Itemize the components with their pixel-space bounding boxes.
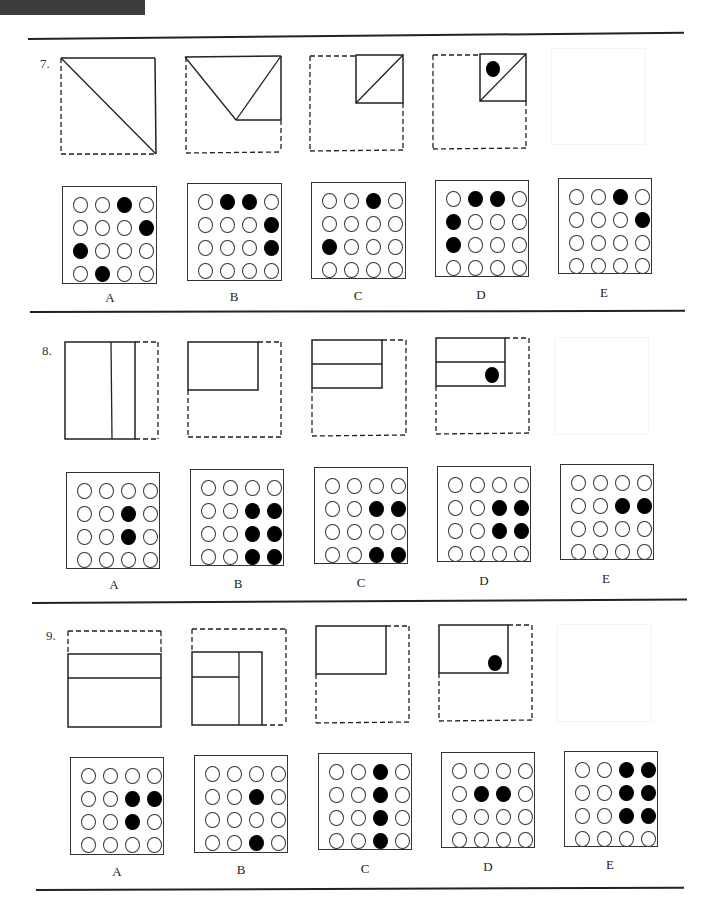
empty-hole-icon [369, 524, 384, 540]
empty-hole-icon [575, 762, 590, 778]
filled-hole-icon [249, 835, 264, 851]
empty-hole-icon [512, 260, 527, 276]
filled-hole-icon [641, 762, 656, 778]
option-E-label[interactable]: E [600, 857, 620, 873]
empty-hole-icon [518, 763, 533, 779]
empty-hole-icon [205, 789, 220, 805]
filled-hole-icon [641, 808, 656, 824]
empty-hole-icon [613, 258, 628, 274]
option-D-grid[interactable] [437, 466, 531, 562]
filled-hole-icon [242, 194, 257, 210]
empty-hole-icon [446, 260, 461, 276]
empty-hole-icon [490, 260, 505, 276]
empty-hole-icon [329, 833, 344, 849]
empty-hole-icon [452, 809, 467, 825]
option-C-grid[interactable] [314, 467, 408, 564]
option-E-grid[interactable] [558, 178, 652, 274]
filled-hole-icon [139, 220, 154, 236]
option-B-grid[interactable] [187, 183, 282, 281]
filled-hole-icon [373, 810, 388, 826]
option-B-label[interactable]: B [224, 289, 244, 305]
empty-hole-icon [81, 837, 96, 853]
empty-hole-icon [267, 480, 282, 496]
option-E-label[interactable]: E [594, 285, 614, 301]
filled-hole-icon [492, 523, 507, 539]
option-D-grid[interactable] [441, 752, 535, 848]
fold-step-2 [191, 627, 289, 729]
option-B-grid[interactable] [190, 469, 284, 566]
option-D-label[interactable]: D [474, 573, 494, 589]
empty-hole-icon [395, 764, 410, 780]
option-D-label[interactable]: D [478, 859, 498, 875]
empty-hole-icon [325, 501, 340, 517]
empty-hole-icon [474, 763, 489, 779]
filled-hole-icon [366, 193, 381, 209]
empty-hole-icon [490, 237, 505, 253]
option-C-label[interactable]: C [351, 575, 371, 591]
option-E-grid[interactable] [560, 464, 654, 560]
empty-hole-icon [597, 831, 612, 847]
empty-hole-icon [468, 214, 483, 230]
option-D-grid[interactable] [435, 180, 529, 277]
empty-hole-icon [329, 764, 344, 780]
empty-hole-icon [635, 235, 650, 251]
option-B-label[interactable]: B [231, 862, 251, 878]
punched-hole-icon [488, 655, 502, 671]
empty-hole-icon [597, 762, 612, 778]
empty-hole-icon [271, 812, 286, 828]
empty-hole-icon [571, 498, 586, 514]
option-A-grid[interactable] [62, 186, 157, 284]
empty-hole-icon [344, 239, 359, 255]
option-C-label[interactable]: C [355, 861, 375, 877]
option-A-label[interactable]: A [104, 577, 124, 593]
option-A-grid[interactable] [66, 472, 160, 569]
filled-hole-icon [391, 501, 406, 517]
filled-hole-icon [496, 786, 511, 802]
fold-step-1 [67, 629, 165, 731]
option-A-label[interactable]: A [107, 864, 127, 880]
empty-hole-icon [103, 837, 118, 853]
divider-bottom [36, 887, 684, 891]
empty-hole-icon [220, 240, 235, 256]
option-B-label[interactable]: B [228, 576, 248, 592]
empty-hole-icon [147, 837, 162, 853]
option-A-grid[interactable] [70, 757, 164, 855]
option-C-grid[interactable] [311, 182, 406, 279]
empty-hole-icon [147, 768, 162, 784]
filled-hole-icon [446, 237, 461, 253]
option-A-label[interactable]: A [100, 290, 120, 306]
option-C-label[interactable]: C [348, 288, 368, 304]
fold-step-3 [309, 54, 407, 154]
empty-hole-icon [325, 524, 340, 540]
punched-hole-icon [485, 367, 499, 383]
empty-hole-icon [198, 263, 213, 279]
option-E-grid[interactable] [564, 751, 658, 847]
divider-top [28, 32, 684, 40]
empty-hole-icon [329, 810, 344, 826]
empty-hole-icon [121, 552, 136, 568]
empty-hole-icon [369, 478, 384, 494]
empty-hole-icon [77, 506, 92, 522]
header-bar [0, 0, 145, 15]
empty-hole-icon [637, 544, 652, 560]
option-E-label[interactable]: E [596, 571, 616, 587]
empty-hole-icon [593, 498, 608, 514]
empty-hole-icon [271, 835, 286, 851]
option-B-grid[interactable] [194, 755, 288, 853]
fold-step-4 [435, 337, 533, 439]
empty-hole-icon [139, 197, 154, 213]
empty-hole-icon [575, 808, 590, 824]
empty-hole-icon [143, 483, 158, 499]
empty-hole-icon [615, 475, 630, 491]
filled-hole-icon [373, 833, 388, 849]
empty-hole-icon [103, 768, 118, 784]
empty-hole-icon [347, 501, 362, 517]
empty-hole-icon [388, 262, 403, 278]
empty-hole-icon [615, 521, 630, 537]
option-D-label[interactable]: D [471, 287, 491, 303]
option-C-grid[interactable] [318, 753, 412, 850]
empty-hole-icon [347, 547, 362, 563]
empty-hole-icon [452, 786, 467, 802]
empty-hole-icon [227, 766, 242, 782]
empty-hole-icon [518, 786, 533, 802]
